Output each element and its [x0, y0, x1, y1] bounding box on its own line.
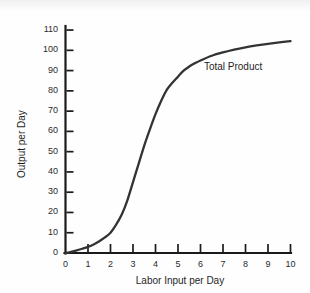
y-tick-label: 20 [28, 206, 58, 216]
x-axis-label: Labor Input per Day [0, 275, 310, 286]
y-tick-label: 50 [28, 146, 58, 156]
x-tick-label: 7 [213, 259, 233, 269]
y-tick-label: 80 [28, 85, 58, 95]
y-tick-label: 90 [28, 65, 58, 75]
y-tick-label: 100 [28, 44, 58, 54]
x-axis-ticks [88, 244, 291, 252]
y-tick-label: 30 [28, 186, 58, 196]
x-tick-label: 0 [56, 259, 76, 269]
total-product-annotation: Total Product [204, 61, 262, 72]
y-tick-label: 0 [28, 247, 58, 257]
x-tick-label: 3 [123, 259, 143, 269]
total-product-curve [66, 41, 291, 253]
y-tick-label: 60 [28, 125, 58, 135]
x-tick-label: 6 [191, 259, 211, 269]
x-tick-label: 9 [258, 259, 278, 269]
y-axis-label: Output per Day [16, 110, 27, 178]
x-tick-label: 4 [146, 259, 166, 269]
x-tick-label: 5 [168, 259, 188, 269]
y-axis-ticks [67, 30, 74, 233]
y-tick-label: 110 [28, 24, 58, 34]
x-tick-label: 1 [78, 259, 98, 269]
y-tick-label: 10 [28, 227, 58, 237]
y-tick-label: 40 [28, 166, 58, 176]
y-tick-label: 70 [28, 105, 58, 115]
x-tick-label: 2 [101, 259, 121, 269]
x-tick-label: 8 [236, 259, 256, 269]
x-tick-label: 10 [281, 259, 301, 269]
total-product-chart: 0102030405060708090100110 012345678910 O… [0, 0, 310, 293]
